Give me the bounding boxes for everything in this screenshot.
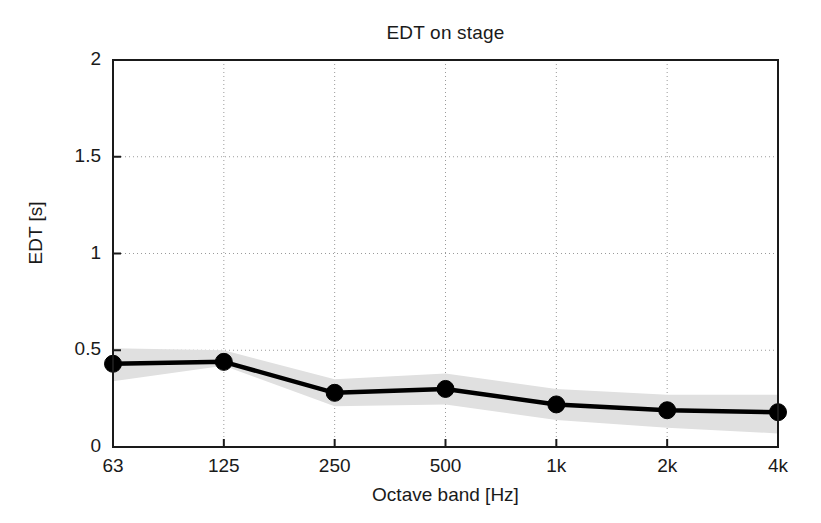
horizontal-gridlines: [113, 157, 778, 351]
x-tick-label: 1k: [546, 455, 567, 476]
data-point-marker: [215, 353, 232, 370]
x-tick-label: 2k: [657, 455, 678, 476]
y-tick-label: 2: [90, 48, 101, 69]
data-point-marker: [659, 402, 676, 419]
plot-area: 00.511.52 631252505001k2k4k: [0, 0, 821, 523]
chart-figure: EDT on stage EDT [s] Octave band [Hz] 00…: [0, 0, 821, 523]
data-point-marker: [437, 380, 454, 397]
x-tick-label: 500: [430, 455, 462, 476]
x-tick-label: 250: [319, 455, 351, 476]
y-tick-labels: 00.511.52: [75, 48, 101, 456]
data-point-marker: [548, 396, 565, 413]
y-tick-label: 0: [90, 435, 101, 456]
data-point-marker: [326, 384, 343, 401]
x-tick-label: 125: [208, 455, 240, 476]
y-tick-label: 1.5: [75, 145, 101, 166]
y-tick-label: 1: [90, 242, 101, 263]
x-tick-label: 63: [102, 455, 123, 476]
x-tick-label: 4k: [768, 455, 789, 476]
x-tick-labels: 631252505001k2k4k: [102, 455, 788, 476]
y-tick-label: 0.5: [75, 338, 101, 359]
